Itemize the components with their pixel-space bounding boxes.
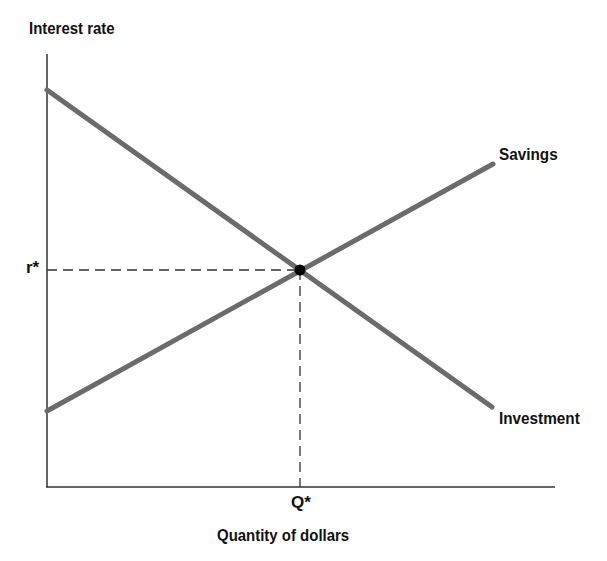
y-axis-label: Interest rate: [29, 19, 115, 39]
savings-label: Savings: [499, 145, 558, 165]
savings-line: [47, 164, 493, 411]
investment-label: Investment: [499, 409, 580, 429]
investment-line: [47, 90, 492, 407]
x-axis-label: Quantity of dollars: [217, 526, 349, 546]
r-star-tick-label: r*: [26, 258, 39, 278]
q-star-tick-label: Q*: [291, 493, 311, 513]
equilibrium-point: [295, 265, 306, 276]
chart-canvas: [0, 0, 607, 561]
